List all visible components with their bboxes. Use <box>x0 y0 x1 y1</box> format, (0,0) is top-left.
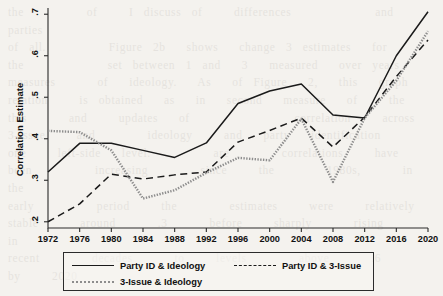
y-axis-tick-label: .6 <box>30 45 40 63</box>
x-axis-tick-label: 2012 <box>350 234 380 244</box>
legend-item: Party ID & 3-Issue <box>232 258 361 274</box>
x-axis-tick-label: 1992 <box>191 234 221 244</box>
y-axis-tick-label: .3 <box>30 169 40 187</box>
legend-item: Party ID & Ideology <box>70 258 205 274</box>
x-axis-tick-label: 1972 <box>33 234 63 244</box>
series-line <box>48 40 428 222</box>
series-line <box>48 12 428 172</box>
y-axis-tick-label: .7 <box>30 3 40 21</box>
x-axis-tick-label: 1984 <box>128 234 158 244</box>
x-axis-tick-label: 1976 <box>65 234 95 244</box>
series-line <box>48 31 428 198</box>
x-axis-tick-label: 2008 <box>318 234 348 244</box>
x-axis-tick-label: 2004 <box>286 234 316 244</box>
legend-line-swatch-icon <box>232 260 278 272</box>
y-axis-tick-label: .4 <box>30 128 40 146</box>
x-axis-tick-label: 2016 <box>381 234 411 244</box>
y-axis-label: Correlation Estimate <box>14 75 25 185</box>
legend-item-label: Party ID & Ideology <box>116 261 205 271</box>
x-axis-tick-label: 2020 <box>413 234 443 244</box>
legend-line-swatch-icon <box>70 276 116 288</box>
axis-spines <box>48 8 428 228</box>
x-axis-tick-label: 2000 <box>255 234 285 244</box>
legend-item: 3-Issue & Ideology <box>70 274 202 290</box>
legend-line-swatch-icon <box>70 260 116 272</box>
y-axis-tick-label: .5 <box>30 86 40 104</box>
legend-item-label: 3-Issue & Ideology <box>116 277 202 287</box>
legend-item-label: Party ID & 3-Issue <box>278 261 361 271</box>
x-axis-tick-label: 1980 <box>96 234 126 244</box>
y-axis-tick-label: .2 <box>30 211 40 229</box>
x-axis-tick-label: 1988 <box>160 234 190 244</box>
chart-legend: Party ID & IdeologyParty ID & 3-Issue3-I… <box>63 252 374 291</box>
x-axis-tick-label: 1996 <box>223 234 253 244</box>
